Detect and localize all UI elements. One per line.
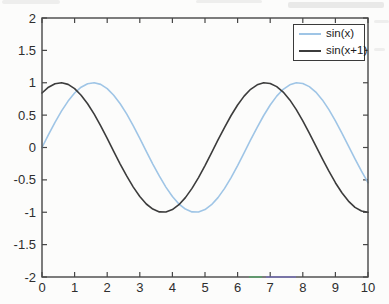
x-tick-label: 4 [169,280,176,295]
legend-item-sin-x-plus-1: sin(x+1) [294,43,364,59]
x-tick-label: 0 [38,280,45,295]
x-tick-label: 2 [104,280,111,295]
y-tick-label: -0.5 [14,172,36,187]
x-tick-label: 6 [234,280,241,295]
y-tick-label: 0.5 [18,108,36,123]
figure: 012345678910-2-1.5-1-0.500.511.52 sin(x)… [0,0,389,304]
y-tick-label: -2 [24,270,36,285]
legend-label-sin-x: sin(x) [326,28,354,40]
legend-label-sin-x-plus-1: sin(x+1) [326,45,367,57]
x-tick-label: 1 [71,280,78,295]
x-tick-label: 7 [267,280,274,295]
x-tick-label: 3 [136,280,143,295]
y-tick-label: 1 [29,75,36,90]
y-tick-label: -1 [24,205,36,220]
y-tick-label: -1.5 [14,237,36,252]
series-line-1 [42,83,368,213]
y-tick-label: 1.5 [18,43,36,58]
legend-item-sin-x: sin(x) [294,26,364,42]
y-tick-label: 0 [29,140,36,155]
x-tick-label: 5 [201,280,208,295]
series-line-0 [42,83,368,212]
legend[interactable]: sin(x) sin(x+1) [293,24,365,61]
x-tick-label: 8 [299,280,306,295]
x-tick-label: 9 [332,280,339,295]
x-tick-label: 10 [361,280,375,295]
y-tick-label: 2 [29,11,36,26]
legend-line-sample-sin-x-plus-1 [299,50,321,52]
legend-line-sample-sin-x [299,33,321,35]
